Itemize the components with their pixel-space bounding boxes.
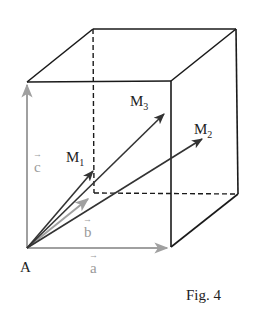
label-vec-a-arrow: → <box>89 250 98 260</box>
edge-front-top <box>27 81 171 82</box>
edge-top-left-depth <box>27 29 93 82</box>
label-vec-b: b <box>84 224 92 240</box>
label-m3: M3 <box>130 93 148 112</box>
label-m1: M1 <box>66 149 84 168</box>
label-m2: M2 <box>194 121 212 140</box>
edge-bottom-right-depth <box>171 194 238 247</box>
vector-b <box>27 199 88 248</box>
cube-edges <box>27 29 238 247</box>
label-vec-c: c <box>34 159 41 175</box>
hidden-edges <box>93 29 238 194</box>
edge-back-left-hidden <box>93 29 94 193</box>
cube-vector-diagram: A → a → b → c M1 M3 M2 Fig. 4 <box>0 0 253 320</box>
label-origin-a: A <box>20 259 31 275</box>
vector-m3 <box>27 114 164 248</box>
edge-top-right-depth <box>171 29 236 81</box>
label-vec-b-arrow: → <box>83 214 92 224</box>
label-vec-a: a <box>90 260 97 276</box>
label-vec-c-arrow: → <box>33 149 42 159</box>
edge-back-right <box>236 29 238 194</box>
figure-caption: Fig. 4 <box>186 287 222 303</box>
